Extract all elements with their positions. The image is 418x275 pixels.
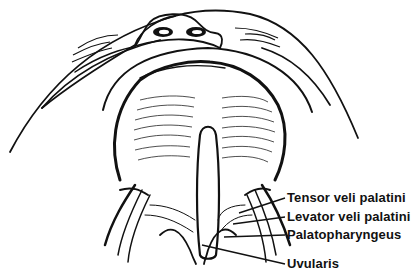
upper-lip-outline bbox=[10, 10, 358, 152]
leader-tensor bbox=[239, 198, 285, 213]
leader-palatopharyngeus bbox=[224, 235, 285, 237]
label-levator-veli-palatini: Levator veli palatini bbox=[287, 210, 410, 224]
nose bbox=[135, 14, 222, 48]
label-uvularis: Uvularis bbox=[287, 257, 339, 271]
leader-levator bbox=[233, 217, 285, 224]
soft-palate-hatching bbox=[134, 96, 275, 162]
label-palatopharyngeus: Palatopharyngeus bbox=[287, 228, 401, 242]
leader-uvularis bbox=[202, 245, 285, 264]
leader-lines bbox=[202, 198, 285, 264]
label-tensor-veli-palatini: Tensor veli palatini bbox=[287, 191, 406, 205]
palatal-arch bbox=[103, 48, 312, 180]
uvula bbox=[197, 127, 219, 259]
